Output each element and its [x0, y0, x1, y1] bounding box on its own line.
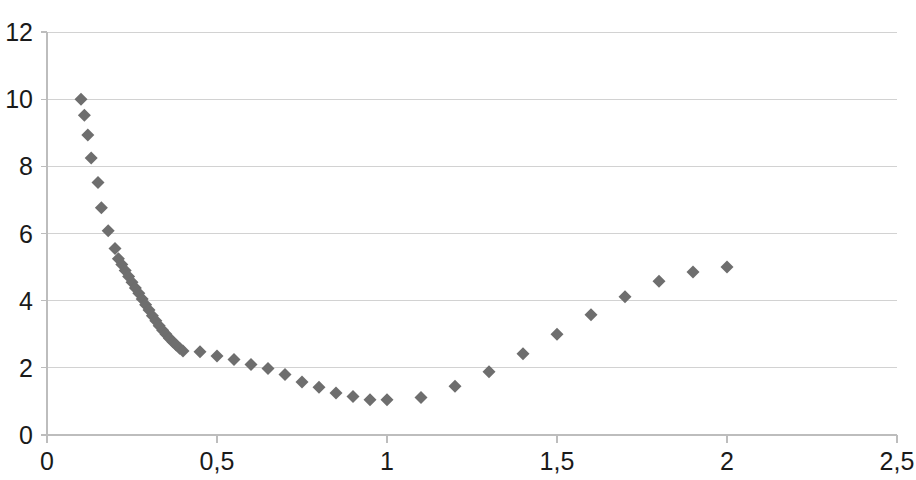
data-points-group — [75, 93, 734, 407]
y-tick-labels-group: 024681012 — [5, 18, 33, 449]
data-point — [551, 328, 564, 341]
data-point — [330, 387, 343, 400]
data-point — [262, 362, 275, 375]
data-point — [347, 390, 360, 403]
data-point — [381, 393, 394, 406]
y-tick-label-2: 2 — [19, 354, 33, 382]
data-point — [211, 350, 224, 363]
x-tick-label-1: 1 — [380, 447, 394, 475]
data-point — [78, 109, 91, 122]
data-point — [102, 224, 115, 237]
data-point — [517, 347, 530, 360]
y-tick-label-6: 6 — [19, 220, 33, 248]
data-point — [653, 275, 666, 288]
data-point — [228, 353, 241, 366]
data-point — [109, 242, 122, 255]
x-tick-label-1-5: 1,5 — [540, 447, 575, 475]
y-tick-label-10: 10 — [5, 85, 33, 113]
data-point — [483, 365, 496, 378]
data-point — [75, 93, 88, 106]
data-point — [92, 176, 105, 189]
data-point — [279, 368, 292, 381]
data-point — [313, 381, 326, 394]
scatter-chart: 024681012 00,511,522,5 — [0, 0, 916, 480]
data-point — [194, 345, 207, 358]
plot-area: 024681012 00,511,522,5 — [0, 0, 916, 480]
data-point — [81, 129, 94, 142]
data-point — [95, 201, 108, 214]
data-point — [585, 308, 598, 321]
data-point — [687, 266, 700, 279]
data-point — [245, 358, 258, 371]
y-tick-label-12: 12 — [5, 18, 33, 46]
y-tick-label-8: 8 — [19, 152, 33, 180]
y-tick-label-0: 0 — [19, 421, 33, 449]
x-tick-label-2-5: 2,5 — [880, 447, 915, 475]
y-tick-label-4: 4 — [19, 287, 33, 315]
data-point — [364, 393, 377, 406]
data-point — [85, 151, 98, 164]
x-tick-label-0: 0 — [40, 447, 54, 475]
data-point — [619, 290, 632, 303]
data-point — [415, 391, 428, 404]
data-point — [296, 375, 309, 388]
gridlines-group — [47, 32, 897, 435]
axis-lines-group — [41, 32, 897, 443]
x-tick-label-0-5: 0,5 — [200, 447, 235, 475]
data-point — [721, 261, 734, 274]
x-tick-label-2: 2 — [720, 447, 734, 475]
data-point — [449, 380, 462, 393]
x-tick-labels-group: 00,511,522,5 — [40, 447, 914, 475]
